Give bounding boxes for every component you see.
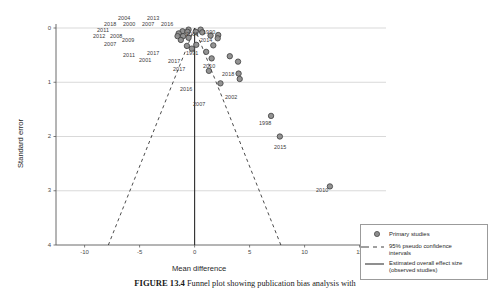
- x-tick-label: 5: [241, 249, 259, 255]
- study-marker: [209, 56, 214, 61]
- gridlines: [56, 28, 386, 191]
- study-marker: [277, 134, 282, 139]
- y-axis-title: Standard error: [16, 119, 25, 168]
- caption-figure-number: FIGURE 13.4: [134, 278, 185, 288]
- study-marker: [194, 42, 199, 47]
- study-year-label: 2007: [193, 101, 205, 107]
- study-marker: [236, 71, 241, 76]
- study-marker: [178, 37, 183, 42]
- study-marker: [268, 113, 273, 118]
- study-marker: [227, 54, 232, 59]
- study-year-label: 2008: [110, 33, 122, 39]
- study-year-label: 1990: [203, 29, 215, 35]
- study-markers: [175, 27, 333, 189]
- study-year-label: 2007: [142, 21, 154, 27]
- study-year-label: 2011: [123, 52, 135, 58]
- x-tick-label: 0: [186, 249, 204, 255]
- study-marker: [235, 59, 240, 64]
- study-year-label: 2016: [161, 21, 173, 27]
- study-year-label: 1991: [186, 50, 198, 56]
- funnel-plot-figure: 2004201320182000200720162011201220082009…: [0, 0, 490, 294]
- study-year-label: 2001: [139, 57, 151, 63]
- study-marker: [215, 36, 220, 41]
- y-tick-label: 3: [38, 187, 51, 193]
- study-year-label: 2010: [316, 187, 328, 193]
- study-year-label: 2000: [123, 21, 135, 27]
- study-year-label: 2017: [168, 58, 180, 64]
- study-year-label: 2007: [104, 41, 116, 47]
- x-tick-label: -10: [76, 249, 94, 255]
- study-marker: [211, 43, 216, 48]
- figure-caption: FIGURE 13.4 Funnel plot showing publicat…: [0, 278, 490, 288]
- y-tick-label: 4: [38, 242, 51, 248]
- study-year-label: 1998: [259, 120, 271, 126]
- y-tick-label: 0: [38, 25, 51, 31]
- study-year-label: 2009: [122, 37, 134, 43]
- study-year-label: 2010: [203, 63, 215, 69]
- study-marker: [237, 76, 242, 81]
- study-marker: [184, 43, 189, 48]
- legend: Primary studies 95% pseudo confidence in…: [360, 224, 488, 280]
- y-tick-label: 1: [38, 79, 51, 85]
- legend-label-primary-studies: Primary studies: [389, 231, 430, 238]
- x-tick-label: 10: [296, 249, 314, 255]
- study-year-label: 2017: [173, 66, 185, 72]
- y-tick-label: 2: [38, 133, 51, 139]
- axis-lines: [56, 24, 390, 245]
- study-year-label: 2018: [222, 71, 234, 77]
- study-year-label: 2002: [225, 94, 237, 100]
- study-year-label: 2006: [186, 31, 198, 37]
- legend-label-effect-line2: (observed studies): [389, 267, 437, 274]
- legend-circle-marker-icon: [374, 231, 379, 236]
- caption-text: Funnel plot showing publication bias ana…: [187, 279, 356, 288]
- study-year-label: 2015: [274, 144, 286, 150]
- study-year-label: 2017: [147, 50, 159, 56]
- legend-label-ci-line2: intervals: [389, 250, 411, 257]
- study-year-label: 2016: [180, 86, 192, 92]
- study-year-label: 2014: [200, 37, 212, 43]
- x-tick-label: -5: [131, 249, 149, 255]
- study-marker: [218, 81, 223, 86]
- study-marker: [203, 49, 208, 54]
- study-year-label: 2012: [93, 33, 105, 39]
- x-axis-title: Mean difference: [172, 264, 226, 273]
